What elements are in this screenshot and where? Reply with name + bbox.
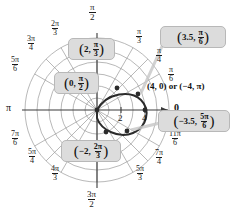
angle-tick-5pi-over-4: 5π4 (27, 148, 37, 165)
callout-r-value: −2, (79, 147, 91, 156)
polar-figure: 0 π π 2 3π 2 2 4 π6 π4 π3 2π3 3π4 5π6 7π… (0, 0, 241, 210)
callout-point-4-0-or-neg4-pi[interactable]: (4, 0) or (−4, π) (147, 82, 204, 91)
callout-point-0-pi-over-2[interactable]: ( 0, π 2 ) (54, 72, 99, 94)
radial-mark-4: 4 (142, 114, 147, 123)
callout-point-2-pi-over-3[interactable]: ( 2, π 3 ) (68, 38, 115, 60)
angle-tick-2pi-over-3: 2π3 (50, 20, 60, 37)
angle-tick-11pi-over-6: 11π6 (168, 130, 182, 147)
angle-tick-7pi-over-4: 7π4 (154, 149, 164, 166)
angle-tick-5pi-over-3: 5π3 (135, 165, 145, 182)
angle-tick-pi-over-4: π4 (156, 47, 162, 64)
callout-r-value: 3.5, (182, 33, 196, 42)
axis-label-pi: π (6, 103, 11, 113)
angle-tick-pi-over-3: π3 (136, 28, 142, 45)
radial-mark-2: 2 (118, 114, 123, 123)
axis-label-3pi-over-2: 3π 2 (86, 190, 97, 209)
callout-point-3.5-pi-over-6[interactable]: ( 3.5, π 6 ) (160, 26, 226, 48)
angle-tick-4pi-over-3: 4π3 (50, 165, 60, 182)
callout-r-value: 2, (84, 45, 91, 54)
angle-tick-3pi-over-4: 3π4 (26, 35, 36, 52)
axis-label-pi-over-2: π 2 (89, 3, 96, 22)
callout-r-value: 0, (69, 79, 76, 88)
angle-tick-5pi-over-6: 5π6 (10, 56, 20, 73)
angle-tick-7pi-over-6: 7π6 (10, 130, 20, 147)
callout-r-value: −3.5, (178, 117, 197, 126)
callout-point-neg2-2pi-over-3[interactable]: ( −2, 2π 3 ) (61, 140, 121, 162)
callout-point-neg3.5-5pi-over-6[interactable]: ( −3.5, 5π 6 ) (158, 110, 230, 132)
